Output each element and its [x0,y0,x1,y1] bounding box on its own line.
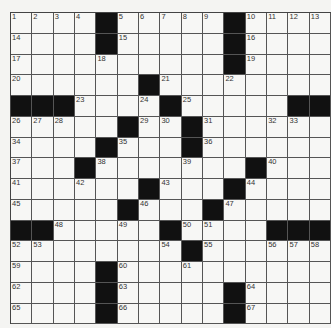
grid-cell[interactable] [246,221,267,242]
grid-cell[interactable] [54,200,75,221]
grid-cell[interactable] [118,179,139,200]
grid-cell[interactable] [139,158,160,179]
grid-cell[interactable] [246,138,267,159]
grid-cell[interactable]: 19 [246,55,267,76]
grid-cell[interactable] [139,55,160,76]
grid-cell[interactable] [288,55,309,76]
grid-cell[interactable] [160,200,181,221]
grid-cell[interactable]: 30 [160,117,181,138]
grid-cell[interactable] [246,75,267,96]
grid-cell[interactable]: 17 [11,55,32,76]
grid-cell[interactable] [182,34,203,55]
grid-cell[interactable] [54,283,75,304]
grid-cell[interactable] [203,75,224,96]
grid-cell[interactable]: 65 [11,304,32,325]
grid-cell[interactable]: 32 [267,117,288,138]
grid-cell[interactable]: 56 [267,241,288,262]
grid-cell[interactable] [139,138,160,159]
grid-cell[interactable]: 44 [246,179,267,200]
grid-cell[interactable] [182,304,203,325]
grid-cell[interactable]: 12 [288,13,309,34]
grid-cell[interactable] [246,262,267,283]
grid-cell[interactable] [32,283,53,304]
grid-cell[interactable] [54,138,75,159]
grid-cell[interactable] [32,55,53,76]
grid-cell[interactable] [96,75,117,96]
grid-cell[interactable]: 37 [11,158,32,179]
grid-cell[interactable]: 25 [182,96,203,117]
grid-cell[interactable] [160,304,181,325]
grid-cell[interactable] [224,158,245,179]
grid-cell[interactable] [267,34,288,55]
grid-cell[interactable] [54,34,75,55]
grid-cell[interactable] [32,138,53,159]
grid-cell[interactable]: 38 [96,158,117,179]
grid-cell[interactable] [203,262,224,283]
grid-cell[interactable] [139,241,160,262]
grid-cell[interactable] [310,200,331,221]
grid-cell[interactable] [96,117,117,138]
grid-cell[interactable] [54,241,75,262]
grid-cell[interactable] [96,221,117,242]
grid-cell[interactable]: 41 [11,179,32,200]
grid-cell[interactable] [224,221,245,242]
grid-cell[interactable]: 63 [118,283,139,304]
grid-cell[interactable] [224,138,245,159]
grid-cell[interactable] [288,304,309,325]
grid-cell[interactable] [118,75,139,96]
grid-cell[interactable] [288,283,309,304]
grid-cell[interactable]: 21 [160,75,181,96]
grid-cell[interactable] [288,179,309,200]
grid-cell[interactable]: 4 [75,13,96,34]
grid-cell[interactable] [96,96,117,117]
grid-cell[interactable]: 43 [160,179,181,200]
grid-cell[interactable]: 39 [182,158,203,179]
grid-cell[interactable]: 62 [11,283,32,304]
grid-cell[interactable] [118,158,139,179]
grid-cell[interactable]: 10 [246,13,267,34]
grid-cell[interactable] [246,241,267,262]
grid-cell[interactable] [54,179,75,200]
grid-cell[interactable] [96,200,117,221]
grid-cell[interactable] [267,179,288,200]
grid-cell[interactable] [75,117,96,138]
grid-cell[interactable] [224,262,245,283]
grid-cell[interactable] [203,283,224,304]
grid-cell[interactable]: 35 [118,138,139,159]
grid-cell[interactable] [160,138,181,159]
grid-cell[interactable] [310,75,331,96]
grid-cell[interactable] [139,221,160,242]
grid-cell[interactable] [75,138,96,159]
grid-cell[interactable] [288,34,309,55]
grid-cell[interactable] [118,241,139,262]
grid-cell[interactable] [310,262,331,283]
grid-cell[interactable] [267,96,288,117]
grid-cell[interactable] [310,55,331,76]
grid-cell[interactable] [203,34,224,55]
grid-cell[interactable]: 36 [203,138,224,159]
grid-cell[interactable] [310,283,331,304]
grid-cell[interactable] [246,117,267,138]
grid-cell[interactable]: 57 [288,241,309,262]
grid-cell[interactable]: 49 [118,221,139,242]
grid-cell[interactable] [160,262,181,283]
grid-cell[interactable] [182,75,203,96]
grid-cell[interactable] [267,304,288,325]
grid-cell[interactable]: 16 [246,34,267,55]
grid-cell[interactable] [203,55,224,76]
grid-cell[interactable] [288,138,309,159]
grid-cell[interactable]: 26 [11,117,32,138]
grid-cell[interactable] [267,200,288,221]
grid-cell[interactable]: 42 [75,179,96,200]
grid-cell[interactable] [75,55,96,76]
grid-cell[interactable]: 28 [54,117,75,138]
grid-cell[interactable] [160,34,181,55]
grid-cell[interactable]: 5 [118,13,139,34]
grid-cell[interactable]: 64 [246,283,267,304]
grid-cell[interactable] [288,158,309,179]
grid-cell[interactable]: 3 [54,13,75,34]
grid-cell[interactable]: 18 [96,55,117,76]
grid-cell[interactable] [267,75,288,96]
grid-cell[interactable]: 24 [139,96,160,117]
grid-cell[interactable]: 23 [75,96,96,117]
